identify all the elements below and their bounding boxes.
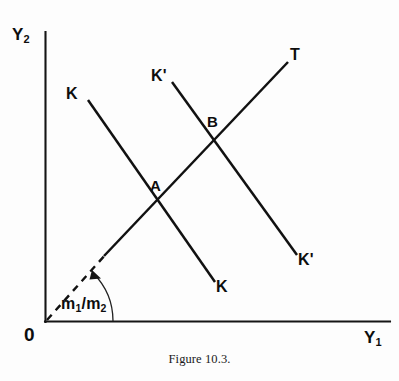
point-label-a: A xyxy=(150,178,161,193)
ray-t-solid-segment xyxy=(104,62,288,256)
curve-kprime-line xyxy=(172,82,297,255)
slope-denominator: m xyxy=(86,295,100,312)
y-axis-label-text: Y xyxy=(12,25,24,44)
slope-denominator-subscript: 2 xyxy=(101,302,107,314)
y-axis-label-subscript: 2 xyxy=(24,33,30,45)
x-axis-label-subscript: 1 xyxy=(376,336,382,348)
figure-caption: Figure 10.3. xyxy=(0,352,399,367)
curve-label-kprime-upper: K' xyxy=(151,68,167,84)
x-axis-label-text: Y xyxy=(364,328,376,347)
curve-label-k-lower: K xyxy=(216,279,228,295)
curve-label-kprime-lower: K' xyxy=(298,252,314,268)
figure-container: Y2 Y1 0 m1/m2 K K K' K' T A B Figure 10.… xyxy=(0,0,399,381)
slope-numerator: m xyxy=(61,295,75,312)
slope-annotation-label: m1/m2 xyxy=(61,296,107,312)
point-label-b: B xyxy=(207,114,218,129)
curve-label-t: T xyxy=(290,47,300,63)
x-axis-label: Y1 xyxy=(364,329,382,346)
slope-numerator-subscript: 1 xyxy=(75,302,81,314)
y-axis-label: Y2 xyxy=(12,26,30,43)
curve-label-k-upper: K xyxy=(66,86,78,102)
origin-label: 0 xyxy=(24,325,35,344)
figure-drawing-canvas xyxy=(0,0,399,381)
